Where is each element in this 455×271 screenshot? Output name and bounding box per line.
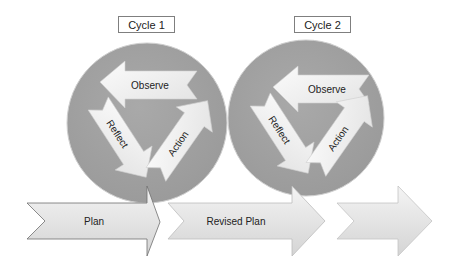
cycle-1-circle: Observe Reflect Action bbox=[67, 43, 227, 203]
plan-label: Plan bbox=[84, 216, 104, 227]
next-plan-arrow-icon bbox=[337, 186, 432, 256]
cycle-2-label: Cycle 2 bbox=[294, 16, 351, 33]
cycle-1-label: Cycle 1 bbox=[118, 16, 175, 33]
observe-label: Observe bbox=[131, 80, 169, 91]
diagram-canvas: Observe Reflect Action Observe Reflect bbox=[0, 0, 455, 271]
observe-label: Observe bbox=[308, 84, 346, 95]
revised-plan-arrow-icon: Revised Plan bbox=[168, 186, 325, 256]
cycle-2-circle: Observe Reflect Action bbox=[228, 40, 386, 196]
revised-plan-label: Revised Plan bbox=[207, 216, 266, 227]
action-research-diagram: Observe Reflect Action Observe Reflect bbox=[0, 0, 455, 271]
